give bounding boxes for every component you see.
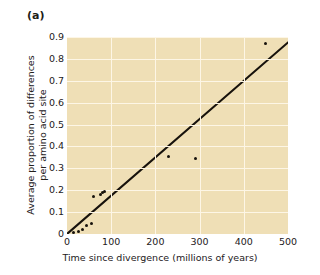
data-point — [90, 222, 93, 225]
y-axis-title-line-1: Average proportion of differences — [25, 55, 37, 214]
data-point — [167, 155, 170, 158]
y-axis-tick-label: 0.5 — [49, 120, 64, 130]
gridline-vertical — [200, 37, 201, 234]
gridline-horizontal — [67, 212, 288, 213]
x-axis-title: Time since divergence (millions of years… — [0, 252, 320, 263]
x-axis-tick-label: 400 — [235, 236, 253, 247]
figure-panel-a: (a) Average proportion of differences pe… — [0, 0, 320, 275]
gridline-vertical — [244, 37, 245, 234]
x-axis-tick-label: 500 — [279, 236, 297, 247]
data-point — [194, 157, 197, 160]
gridline-horizontal — [67, 37, 288, 38]
y-axis-tick-label: 0.8 — [49, 54, 64, 64]
gridline-horizontal — [67, 168, 288, 169]
y-axis-tick-label: 0.6 — [49, 98, 64, 108]
gridline-horizontal — [67, 81, 288, 82]
gridline-horizontal — [67, 59, 288, 60]
x-axis-tick-label: 0 — [64, 236, 70, 247]
y-axis-tick-label: 0.9 — [49, 32, 64, 42]
data-point — [77, 230, 80, 233]
trend-line — [67, 37, 288, 234]
gridline-horizontal — [67, 103, 288, 104]
gridline-vertical — [155, 37, 156, 234]
y-axis-tick-label: 0.3 — [49, 163, 64, 173]
data-point — [103, 190, 106, 193]
x-axis-tick-label: 100 — [102, 236, 120, 247]
gridline-vertical — [111, 37, 112, 234]
y-axis-tick-label: 0.4 — [49, 141, 64, 151]
y-axis-tick-labels: 00.10.20.30.40.50.60.70.80.9 — [38, 30, 64, 242]
x-axis-tick-label: 200 — [146, 236, 164, 247]
plot-area — [67, 37, 288, 234]
gridline-horizontal — [67, 146, 288, 147]
x-axis-tick-label: 300 — [191, 236, 209, 247]
x-axis-tick-labels: 0100200300400500 — [67, 236, 288, 250]
y-axis-tick-label: 0.7 — [49, 76, 64, 86]
gridline-horizontal — [67, 125, 288, 126]
y-axis-tick-label: 0.2 — [49, 185, 64, 195]
y-axis-tick-label: 0.1 — [49, 207, 64, 217]
panel-label: (a) — [27, 9, 44, 22]
